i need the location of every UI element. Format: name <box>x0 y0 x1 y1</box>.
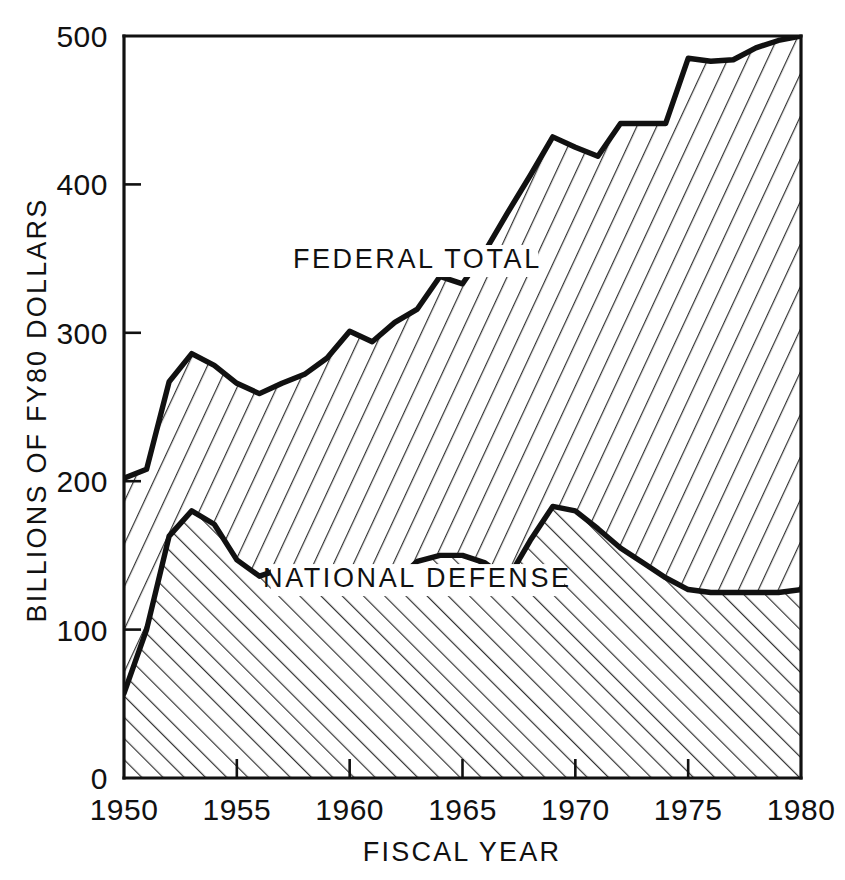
x-tick-label: 1960 <box>315 793 384 826</box>
x-axis-tick-labels: 1950195519601965197019751980 <box>90 793 836 826</box>
x-tick-label: 1980 <box>767 793 836 826</box>
y-tick-label: 0 <box>91 762 108 795</box>
federal-total-label: FEDERAL TOTAL <box>293 244 542 274</box>
y-tick-label: 500 <box>56 20 108 53</box>
y-tick-label: 100 <box>56 614 108 647</box>
y-axis-tick-labels: 0100200300400500 <box>56 20 108 795</box>
x-tick-label: 1965 <box>428 793 497 826</box>
y-axis-title: BILLIONS OF FY80 DOLLARS <box>22 198 52 623</box>
y-tick-label: 400 <box>56 168 108 201</box>
area-chart-svg: 0100200300400500 19501955196019651970197… <box>0 0 845 880</box>
x-tick-label: 1975 <box>654 793 723 826</box>
y-tick-label: 300 <box>56 317 108 350</box>
x-tick-label: 1950 <box>90 793 159 826</box>
x-tick-label: 1970 <box>541 793 610 826</box>
chart-figure: 0100200300400500 19501955196019651970197… <box>0 0 845 880</box>
x-tick-label: 1955 <box>202 793 271 826</box>
plot-area <box>124 36 801 778</box>
national-defense-label: NATIONAL DEFENSE <box>263 563 572 593</box>
y-tick-label: 200 <box>56 465 108 498</box>
x-axis-title: FISCAL YEAR <box>363 837 561 867</box>
